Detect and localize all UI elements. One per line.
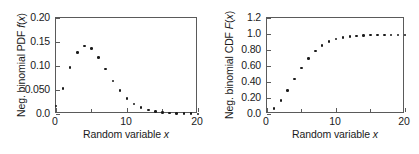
y-tick-mark bbox=[56, 42, 60, 43]
data-point bbox=[161, 111, 164, 114]
figure-two-panel-chart: Neg. binomial PDF f(x) Random variable x… bbox=[0, 0, 419, 154]
data-point bbox=[355, 35, 358, 38]
x-minor-tick-mark bbox=[301, 109, 302, 112]
y-tick-mark bbox=[267, 34, 271, 35]
data-point bbox=[362, 34, 365, 37]
y-tick-mark bbox=[56, 18, 60, 19]
data-point bbox=[321, 44, 324, 47]
chart-panel-cdf: Neg. binomial CDF F(x) Random variable x… bbox=[210, 0, 419, 154]
data-point bbox=[300, 67, 303, 70]
data-point bbox=[273, 107, 276, 110]
y-tick-mark bbox=[56, 66, 60, 67]
x-tick-mark bbox=[56, 108, 57, 112]
data-point bbox=[390, 34, 393, 37]
data-point bbox=[314, 50, 317, 53]
y-tick-mark bbox=[56, 90, 60, 91]
data-point bbox=[90, 47, 93, 50]
data-point bbox=[376, 34, 379, 37]
data-point bbox=[133, 103, 136, 106]
data-point bbox=[342, 36, 345, 39]
y-tick-mark bbox=[267, 66, 271, 67]
data-point bbox=[328, 40, 331, 43]
x-tick-mark bbox=[127, 108, 128, 112]
x-tick-mark bbox=[336, 108, 337, 112]
data-point bbox=[397, 34, 400, 37]
y-tick-label: 0.60 bbox=[210, 60, 261, 71]
data-point bbox=[62, 87, 65, 90]
data-point bbox=[97, 56, 100, 59]
data-point bbox=[154, 110, 157, 113]
x-tick-label: 0 bbox=[40, 116, 70, 127]
y-tick-label: 0.40 bbox=[210, 76, 261, 87]
data-point bbox=[335, 38, 338, 41]
chart-panel-pdf: Neg. binomial PDF f(x) Random variable x… bbox=[0, 0, 209, 154]
data-point bbox=[119, 89, 122, 92]
y-tick-mark bbox=[267, 98, 271, 99]
x-tick-label: 20 bbox=[182, 116, 212, 127]
x-tick-mark bbox=[198, 108, 199, 112]
data-point bbox=[168, 112, 171, 115]
data-point bbox=[83, 45, 86, 48]
y-tick-label: 0.15 bbox=[0, 36, 50, 47]
data-point bbox=[104, 68, 107, 71]
data-point bbox=[55, 105, 58, 108]
x-tick-label: 0 bbox=[251, 116, 281, 127]
y-tick-label: 0.20 bbox=[0, 12, 50, 23]
x-tick-label: 20 bbox=[389, 116, 419, 127]
plot-area-cdf bbox=[266, 17, 404, 113]
data-point bbox=[383, 34, 386, 37]
data-point bbox=[126, 97, 129, 100]
data-point bbox=[349, 35, 352, 38]
y-tick-mark bbox=[267, 50, 271, 51]
data-point bbox=[293, 78, 296, 81]
data-point bbox=[147, 109, 150, 112]
data-point bbox=[404, 34, 407, 37]
y-tick-label: 0.10 bbox=[0, 60, 50, 71]
data-point bbox=[286, 89, 289, 92]
data-point bbox=[280, 99, 283, 102]
x-minor-tick-mark bbox=[91, 109, 92, 112]
y-tick-label: 1.2 bbox=[210, 12, 261, 23]
y-tick-mark bbox=[267, 82, 271, 83]
data-point bbox=[307, 57, 310, 60]
data-point bbox=[69, 66, 72, 69]
y-tick-label: 0.20 bbox=[210, 92, 261, 103]
x-axis-label-pdf: Random variable x bbox=[56, 128, 196, 140]
x-axis-label-cdf: Random variable x bbox=[265, 128, 405, 140]
y-tick-label: 0.050 bbox=[0, 84, 50, 95]
plot-area-pdf bbox=[55, 17, 197, 113]
y-tick-label: 1.0 bbox=[210, 28, 261, 39]
data-point bbox=[140, 106, 143, 109]
x-tick-label: 10 bbox=[320, 116, 350, 127]
data-point bbox=[76, 51, 79, 54]
data-point bbox=[369, 34, 372, 37]
data-point bbox=[183, 112, 186, 115]
y-tick-mark bbox=[267, 18, 271, 19]
x-minor-tick-mark bbox=[370, 109, 371, 112]
data-point bbox=[112, 80, 115, 83]
x-tick-mark bbox=[405, 108, 406, 112]
x-tick-mark bbox=[267, 108, 268, 112]
x-tick-label: 10 bbox=[111, 116, 141, 127]
y-tick-label: 0.80 bbox=[210, 44, 261, 55]
data-point bbox=[175, 112, 178, 115]
